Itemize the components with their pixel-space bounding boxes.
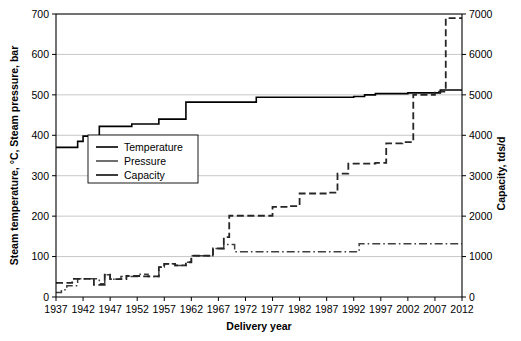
tick-label-x-1952: 1952 [126,303,150,315]
tick-label-y-right-7000: 7000 [469,8,493,20]
tick-label-y-right-5000: 5000 [469,89,493,101]
tick-label-y-right-0: 0 [469,291,475,303]
tick-label-y-right-4000: 4000 [469,129,493,141]
tick-label-x-1957: 1957 [153,303,177,315]
tick-label-y-right-2000: 2000 [469,210,493,222]
tick-label-x-1962: 1962 [180,303,204,315]
y-axis-right-title: Capacity, tds/d [495,137,507,211]
legend-label-temperature: Temperature [124,141,183,153]
tick-label-x-1977: 1977 [261,303,285,315]
y-axis-left-title: Steam temperature, °C, Steam pressure, b… [8,46,20,266]
tick-label-x-1947: 1947 [98,303,122,315]
chart-legend: TemperaturePressureCapacity [88,135,198,183]
tick-label-x-2007: 2007 [423,303,447,315]
legend-label-pressure: Pressure [124,155,166,167]
tick-label-y-right-1000: 1000 [469,250,493,262]
tick-label-x-1942: 1942 [71,303,95,315]
tick-label-y-right-6000: 6000 [469,48,493,60]
chart-background [0,0,521,341]
tick-label-y-left-0: 0 [43,291,49,303]
chart-container: 0100200300400500600700010002000300040005… [0,0,521,341]
tick-label-y-left-400: 400 [31,129,49,141]
tick-label-y-left-100: 100 [31,250,49,262]
tick-label-y-right-3000: 3000 [469,170,493,182]
tick-label-x-1992: 1992 [342,303,366,315]
tick-label-x-1987: 1987 [315,303,339,315]
tick-label-x-2002: 2002 [396,303,420,315]
tick-label-y-left-200: 200 [31,210,49,222]
tick-label-y-left-500: 500 [31,89,49,101]
tick-label-y-left-600: 600 [31,48,49,60]
tick-label-x-2012: 2012 [450,303,474,315]
tick-label-x-1967: 1967 [207,303,231,315]
tick-label-y-left-300: 300 [31,170,49,182]
tick-label-x-1982: 1982 [288,303,312,315]
tick-label-x-1997: 1997 [369,303,393,315]
tick-label-y-left-700: 700 [31,8,49,20]
tick-label-x-1972: 1972 [234,303,258,315]
tick-label-x-1937: 1937 [44,303,68,315]
steam-parameters-chart: 0100200300400500600700010002000300040005… [0,0,521,341]
legend-label-capacity: Capacity [124,169,166,181]
x-axis-title: Delivery year [226,320,291,332]
